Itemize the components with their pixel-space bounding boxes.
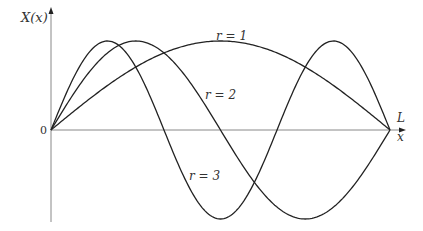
- curve-label-r2: r = 2: [205, 88, 236, 102]
- endpoint-label: L: [396, 111, 405, 125]
- curve-label-r1: r = 1: [216, 29, 247, 43]
- mode-diagram: X(x) 0 L x r = 1 r = 2 r = 3: [0, 0, 423, 231]
- y-axis-label: X(x): [20, 10, 48, 25]
- y-axis-arrow-icon: [49, 7, 54, 14]
- origin-label: 0: [40, 124, 47, 137]
- x-axis-label: x: [397, 130, 404, 144]
- curve-r1: [51, 41, 390, 130]
- curve-label-r3: r = 3: [189, 169, 220, 183]
